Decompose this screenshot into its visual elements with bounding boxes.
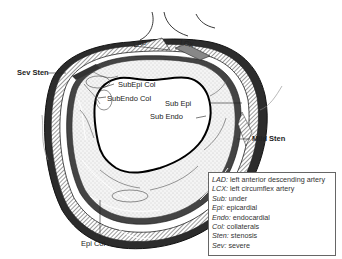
legend-row: Endo: endocardial bbox=[212, 213, 332, 222]
label-sub-epi: Sub Epi bbox=[165, 100, 191, 108]
label-sev-sten: Sev Sten bbox=[17, 69, 49, 77]
legend-row: LCX: left circumflex artery bbox=[212, 184, 332, 193]
label-subendo-col: SubEndo Col bbox=[107, 95, 151, 103]
legend-row: Sten: stenosis bbox=[212, 231, 332, 240]
label-epi-col: Epi Col bbox=[81, 240, 105, 248]
great-vessels bbox=[140, 12, 215, 40]
label-mild-sten: Mild Sten bbox=[252, 135, 285, 143]
legend-row: Epi: epicardial bbox=[212, 203, 332, 212]
legend-row: Sev: severe bbox=[212, 241, 332, 250]
legend-row: LAD: left anterior descending artery bbox=[212, 175, 332, 184]
legend-row: Col: collaterals bbox=[212, 222, 332, 231]
label-sub-endo: Sub Endo bbox=[150, 113, 183, 121]
label-subepi-col: SubEpi Col bbox=[118, 81, 156, 89]
abbreviation-legend: LAD: left anterior descending artery LCX… bbox=[208, 172, 336, 256]
legend-row: Sub: under bbox=[212, 194, 332, 203]
